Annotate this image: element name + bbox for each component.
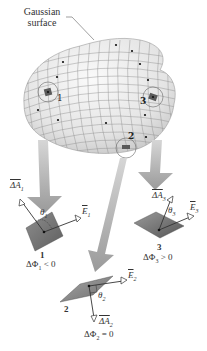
- callout-leader-line: [66, 17, 94, 40]
- field-vector-label-2: E2: [128, 270, 137, 285]
- angle-label-1: θ1: [40, 207, 47, 222]
- surface-label-3: 3: [140, 96, 146, 106]
- patch-3: [134, 212, 184, 238]
- flux-label-3: ΔΦ3 > 0: [143, 252, 172, 267]
- area-vector-label-3: ΔA3: [152, 190, 166, 205]
- projection-arrow-2: [88, 158, 127, 272]
- projection-arrow-1: [27, 140, 62, 213]
- callout-label-line1: Gaussian: [16, 6, 68, 17]
- surface-label-2: 2: [128, 131, 134, 141]
- callout-label-line2: surface: [16, 17, 68, 28]
- angle-label-3: θ3: [168, 205, 175, 220]
- flux-label-1: ΔΦ1 < 0: [26, 259, 55, 274]
- surface-label-1: 1: [57, 93, 63, 103]
- field-vector-arrowhead-1: [75, 215, 81, 222]
- projection-arrow-3: [138, 140, 173, 190]
- area-vector-label-1: ΔA1: [10, 180, 24, 195]
- angle-label-2: θ2: [98, 290, 105, 305]
- field-vector-label-1: E1: [82, 206, 91, 221]
- element-number-2: 2: [64, 304, 69, 315]
- area-element-2: [60, 276, 127, 322]
- area-vector-arrowhead-3: [167, 196, 173, 203]
- flux-label-2: ΔΦ2 = 0: [84, 329, 113, 344]
- field-vector-arrowhead-2: [121, 277, 127, 284]
- field-vector-label-3: E3: [190, 202, 199, 217]
- area-vector-arrowhead-2: [91, 315, 97, 322]
- callout-label: Gaussian surface: [16, 6, 68, 28]
